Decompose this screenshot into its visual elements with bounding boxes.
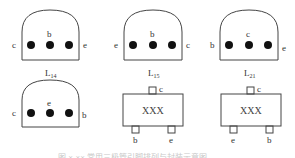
package-caption: L14 (45, 68, 57, 79)
part-marking: XXX (142, 105, 164, 116)
pin-label-bottom-left: e (231, 135, 235, 145)
pin-label-top: c (159, 84, 163, 94)
pin-dot (245, 41, 253, 49)
package-caption: L15 (148, 68, 160, 79)
sot23-package-1: XXX c b e (123, 84, 183, 145)
pin-dot (27, 41, 35, 49)
to92-package-l14: c b e L14 (12, 10, 87, 79)
pin-bottom-left (132, 126, 139, 133)
pin-dot (225, 41, 233, 49)
pin-label-right: e (83, 40, 87, 50)
pin-dot (46, 41, 54, 49)
pin-label-right: b (82, 110, 87, 120)
transistor-pinout-diagram: c b e L14 e b c L15 b c e L21 c e b (0, 0, 295, 158)
pin-label-left: c (12, 40, 16, 50)
pin-dot (65, 109, 73, 117)
figure-caption: 图 ×-×× 常用三极管引脚排列与封装示意图 (58, 152, 207, 158)
part-marking: XXX (240, 105, 262, 116)
pin-label-right: c (186, 40, 190, 50)
pin-label-top: c (257, 84, 261, 94)
to92-package-l21: b c e L21 (210, 10, 286, 79)
sot23-package-2: XXX c e b (221, 84, 281, 145)
pin-label-bottom-right: b (267, 135, 272, 145)
pin-top (149, 87, 156, 94)
pin-label-top: b (150, 29, 155, 39)
pin-label-right: e (282, 43, 286, 53)
pin-dot (149, 41, 157, 49)
package-caption: L21 (244, 68, 256, 79)
to92-package-l15: e b c L15 (114, 10, 190, 79)
pin-dot (65, 41, 73, 49)
pin-bottom-right (266, 126, 273, 133)
pin-label-top: e (47, 98, 51, 108)
pin-label-left: c (12, 108, 16, 118)
pin-top (247, 87, 254, 94)
pin-dot (46, 109, 54, 117)
pin-dot (27, 109, 35, 117)
pin-dot (264, 41, 272, 49)
pin-label-top: b (47, 29, 52, 39)
pin-label-left: e (114, 40, 118, 50)
pin-bottom-left (230, 126, 237, 133)
pin-label-top: c (246, 29, 250, 39)
pin-bottom-right (168, 126, 175, 133)
pin-dot (129, 41, 137, 49)
pin-label-bottom-right: e (169, 135, 173, 145)
pin-label-bottom-left: b (133, 135, 138, 145)
pin-dot (168, 41, 176, 49)
to92-package-row2: c e b (12, 80, 87, 127)
pin-label-left: b (210, 40, 215, 50)
